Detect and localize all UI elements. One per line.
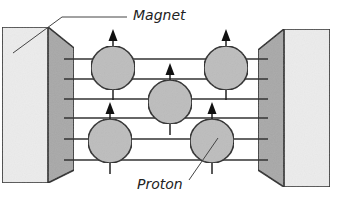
proton-alignment-diagram: Magnet Proton bbox=[0, 0, 342, 198]
right-magnet-side-face bbox=[258, 29, 284, 187]
proton-label: Proton bbox=[137, 176, 183, 192]
spin-up-arrow-icon bbox=[109, 29, 118, 41]
proton-sphere bbox=[88, 119, 132, 163]
proton-sphere bbox=[190, 119, 234, 163]
proton-1 bbox=[91, 29, 135, 100]
spin-up-arrow-icon bbox=[166, 63, 175, 75]
right-magnet-front-face bbox=[284, 29, 330, 187]
proton-sphere bbox=[204, 46, 248, 90]
spin-up-arrow-icon bbox=[106, 102, 115, 114]
proton-3 bbox=[148, 63, 192, 135]
proton-sphere bbox=[148, 80, 192, 124]
right-magnet bbox=[258, 29, 330, 187]
magnet-label: Magnet bbox=[133, 7, 186, 23]
spin-up-arrow-icon bbox=[208, 102, 217, 114]
left-magnet bbox=[2, 27, 74, 183]
left-magnet-front-face bbox=[2, 27, 48, 183]
proton-2 bbox=[204, 29, 248, 100]
proton-4 bbox=[88, 102, 132, 174]
proton-sphere bbox=[91, 46, 135, 90]
spin-up-arrow-icon bbox=[222, 29, 231, 41]
proton-5 bbox=[190, 102, 234, 174]
